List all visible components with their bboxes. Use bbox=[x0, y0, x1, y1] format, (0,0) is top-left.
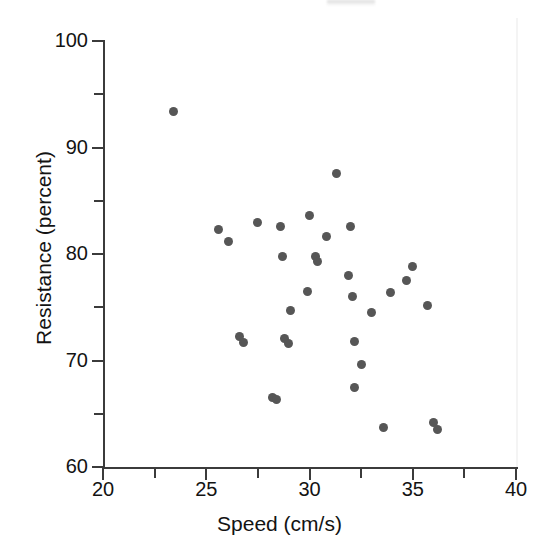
data-point bbox=[433, 425, 442, 434]
y-tick-label: 100 bbox=[26, 30, 88, 50]
data-point bbox=[423, 301, 432, 310]
data-point bbox=[344, 271, 353, 280]
data-point bbox=[253, 218, 262, 227]
data-point bbox=[379, 423, 388, 432]
x-axis-title: Speed (cm/s) bbox=[0, 512, 559, 536]
data-point bbox=[284, 339, 293, 348]
data-point bbox=[322, 232, 331, 241]
x-tick-label: 35 bbox=[383, 478, 443, 500]
data-point bbox=[278, 252, 287, 261]
x-tick-label: 20 bbox=[73, 478, 133, 500]
data-point bbox=[408, 262, 417, 271]
data-point bbox=[332, 169, 341, 178]
plot-data-area bbox=[103, 41, 516, 468]
scan-artifact-vertical-line bbox=[516, 18, 518, 468]
data-point bbox=[313, 257, 322, 266]
cropped-title-smudge bbox=[327, 0, 375, 6]
data-point bbox=[402, 276, 411, 285]
data-point bbox=[348, 292, 357, 301]
data-point bbox=[286, 306, 295, 315]
x-tick-minor bbox=[360, 467, 362, 478]
data-point bbox=[276, 222, 285, 231]
y-tick-label-text: 100 bbox=[36, 30, 88, 50]
x-tick-label: 40 bbox=[486, 478, 546, 500]
scatter-plot-figure: 60708090100 2025303540 Speed (cm/s) Resi… bbox=[0, 0, 559, 560]
data-point bbox=[386, 288, 395, 297]
x-tick-label: 25 bbox=[176, 478, 236, 500]
x-tick-minor bbox=[257, 467, 259, 478]
data-point bbox=[350, 337, 359, 346]
data-point bbox=[169, 107, 178, 116]
data-point bbox=[305, 211, 314, 220]
data-point bbox=[224, 237, 233, 246]
x-tick-label: 30 bbox=[280, 478, 340, 500]
data-point bbox=[214, 225, 223, 234]
data-point bbox=[367, 308, 376, 317]
data-point bbox=[239, 338, 248, 347]
x-tick-minor bbox=[154, 467, 156, 478]
x-tick-minor bbox=[463, 467, 465, 478]
y-tick-label: 60 bbox=[26, 456, 88, 476]
y-axis-title: Resistance (percent) bbox=[32, 98, 56, 398]
data-point bbox=[272, 395, 281, 404]
y-tick-label-text: 60 bbox=[36, 456, 88, 476]
data-point bbox=[350, 383, 359, 392]
data-point bbox=[357, 360, 366, 369]
data-point bbox=[346, 222, 355, 231]
data-point bbox=[303, 287, 312, 296]
